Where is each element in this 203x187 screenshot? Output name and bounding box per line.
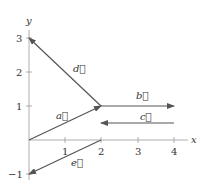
y-ticks: 3 2 1 −1 (8, 33, 32, 180)
x-tick-2: 2 (98, 146, 104, 157)
y-tick-neg1: −1 (8, 169, 23, 180)
x-tick-3: 3 (135, 146, 141, 157)
x-axis-label: x (191, 134, 197, 145)
y-tick-1: 1 (16, 101, 22, 112)
vector-d-label: d⃗ (73, 63, 85, 74)
vector-e-label: e⃗ (71, 157, 83, 168)
y-tick-2: 2 (16, 67, 22, 78)
vector-c-label: c⃗ (140, 111, 152, 122)
x-tick-4: 4 (171, 146, 177, 157)
vector-b-label: b⃗ (136, 90, 148, 101)
vector-a-label: a⃗ (56, 110, 68, 121)
vector-d (29, 38, 101, 106)
y-axis-label: y (25, 15, 32, 26)
vector-diagram: x y 1 2 3 4 3 2 1 −1 a⃗ b⃗ c⃗ d⃗ e⃗ (0, 0, 203, 187)
y-tick-3: 3 (16, 33, 22, 44)
